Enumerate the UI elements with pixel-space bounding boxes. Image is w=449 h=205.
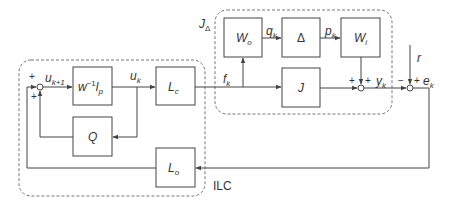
svg-text:r: r [417, 51, 422, 65]
wire-uk-to-q [113, 87, 137, 137]
sum-junction-2 [358, 85, 364, 91]
sum-junction-1 [37, 84, 43, 90]
svg-text:ek: ek [423, 74, 435, 90]
svg-text:ILC: ILC [213, 179, 232, 193]
svg-text:+: + [349, 75, 355, 86]
svg-text:−: − [398, 75, 404, 86]
svg-text:JΔ: JΔ [198, 17, 211, 33]
ilc-block-diagram: w−1lp Q Lc Lo Wo Δ Wi J uk+1 uk fk qk pk… [0, 0, 449, 205]
svg-text:Δ: Δ [297, 31, 305, 45]
svg-text:fk: fk [223, 72, 231, 88]
svg-text:+: + [365, 75, 371, 86]
svg-text:uk+1: uk+1 [45, 71, 65, 87]
block-lc [156, 67, 195, 105]
svg-text:+: + [414, 75, 420, 86]
svg-text:uk: uk [130, 69, 142, 85]
svg-text:yk: yk [375, 74, 387, 90]
svg-text:pk: pk [324, 24, 337, 40]
wire-q-to-sum1 [40, 91, 73, 137]
svg-text:+: + [31, 91, 37, 102]
sum-junction-3 [407, 85, 413, 91]
svg-text:qk: qk [266, 24, 278, 40]
svg-text:J: J [297, 81, 305, 95]
svg-text:Q: Q [88, 130, 97, 144]
svg-text:+: + [29, 71, 35, 82]
